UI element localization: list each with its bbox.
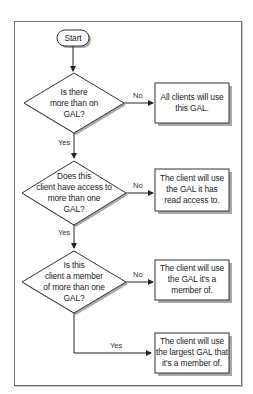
decision-2-label: Does this client have access to more tha… bbox=[29, 171, 119, 215]
outcome-3-line-2: the GAL it's a bbox=[155, 274, 229, 285]
outcome-1-line-2: this GAL. bbox=[155, 103, 229, 114]
edge-label-d3-yes: Yes bbox=[110, 341, 122, 350]
outcome-2-line-1: The client will use bbox=[155, 173, 229, 184]
outcome-1-line-1: All clients will use bbox=[155, 92, 229, 103]
decision-2-line-2: client have access to bbox=[29, 182, 119, 193]
outcome-4-line-3: it's a member of. bbox=[155, 358, 229, 369]
outcome-4-line-1: The client will use bbox=[155, 336, 229, 347]
decision-1-line-2: more than on bbox=[39, 98, 109, 109]
decision-2-line-4: GAL? bbox=[29, 204, 119, 215]
edge-label-d2-no: No bbox=[133, 181, 143, 190]
outcome-1-label: All clients will use this GAL. bbox=[155, 92, 229, 114]
outcome-4-line-2: the largest GAL that bbox=[155, 347, 229, 358]
decision-3-line-2: client a member bbox=[32, 271, 116, 282]
decision-1-label: Is there more than on GAL? bbox=[39, 87, 109, 120]
outcome-3-label: The client will use the GAL it's a membe… bbox=[155, 263, 229, 296]
decision-1-line-1: Is there bbox=[39, 87, 109, 98]
decision-3-line-3: of more than one bbox=[32, 282, 116, 293]
edge-label-d3-no: No bbox=[133, 270, 143, 279]
decision-3-line-1: Is this bbox=[32, 260, 116, 271]
outcome-2-line-2: the GAL it has bbox=[155, 184, 229, 195]
decision-3-label: Is this client a member of more than one… bbox=[32, 260, 116, 304]
outcome-3-line-1: The client will use bbox=[155, 263, 229, 274]
start-label: Start bbox=[57, 33, 89, 44]
edge-label-d2-yes: Yes bbox=[58, 228, 70, 237]
decision-2-line-3: more than one bbox=[29, 193, 119, 204]
outcome-4-label: The client will use the largest GAL that… bbox=[155, 336, 229, 369]
decision-3-line-4: GAL? bbox=[32, 293, 116, 304]
decision-2-line-1: Does this bbox=[29, 171, 119, 182]
edge-label-d1-no: No bbox=[133, 91, 143, 100]
edge-label-d1-yes: Yes bbox=[58, 138, 70, 147]
outcome-3-line-3: member of. bbox=[155, 285, 229, 296]
decision-1-line-3: GAL? bbox=[39, 109, 109, 120]
outcome-2-label: The client will use the GAL it has read … bbox=[155, 173, 229, 206]
outcome-2-line-3: read access to. bbox=[155, 195, 229, 206]
